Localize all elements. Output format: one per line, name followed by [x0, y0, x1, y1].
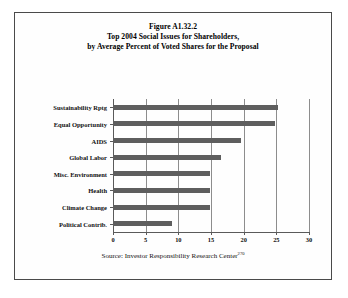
figure-title: Figure A1.32.2 Top 2004 Social Issues fo…: [15, 22, 331, 53]
x-tick-label: 20: [240, 236, 246, 243]
title-line-2: Top 2004 Social Issues for Shareholders,: [15, 32, 331, 42]
x-tick-label: 0: [111, 236, 114, 243]
x-tick-mark: [244, 232, 245, 235]
y-tick-mark: [110, 224, 113, 225]
y-axis-label: Political Contrib.: [59, 220, 107, 227]
figure-frame: Figure A1.32.2 Top 2004 Social Issues fo…: [14, 12, 332, 280]
bar-row: [113, 105, 309, 110]
y-axis-label: Sustainability Rptg: [53, 104, 107, 111]
y-axis-label: Climate Change: [62, 204, 107, 211]
gridline: [309, 99, 310, 232]
x-tick-mark: [113, 232, 114, 235]
y-tick-mark: [110, 107, 113, 108]
x-tick-mark: [309, 232, 310, 235]
bar: [113, 138, 241, 143]
bar: [113, 221, 172, 226]
bar-row: [113, 188, 309, 193]
x-tick-label: 15: [208, 236, 214, 243]
y-axis-label: Health: [88, 187, 107, 194]
source-footnote-marker: 270: [238, 251, 245, 256]
x-tick-mark: [211, 232, 212, 235]
bar: [113, 121, 275, 126]
x-tick-label: 5: [144, 236, 147, 243]
bar-row: [113, 205, 309, 210]
bar-row: [113, 221, 309, 226]
x-tick-mark: [146, 232, 147, 235]
gridline: [276, 99, 277, 232]
x-tick-mark: [178, 232, 179, 235]
y-axis-label: Equal Opportunity: [54, 120, 107, 127]
x-tick-label: 25: [273, 236, 279, 243]
gridline: [146, 99, 147, 232]
y-tick-mark: [110, 207, 113, 208]
y-tick-mark: [110, 124, 113, 125]
bar: [113, 188, 210, 193]
bar: [113, 171, 210, 176]
bar-row: [113, 138, 309, 143]
x-tick-label: 30: [306, 236, 312, 243]
gridline: [178, 99, 179, 232]
source-text: Source: Investor Responsibility Research…: [102, 252, 238, 260]
x-tick-mark: [276, 232, 277, 235]
y-tick-mark: [110, 141, 113, 142]
source-note: Source: Investor Responsibility Research…: [15, 251, 331, 260]
y-axis-label: Misc. Environment: [54, 170, 107, 177]
bar: [113, 105, 278, 110]
y-tick-mark: [110, 190, 113, 191]
bar-chart: 051015202530 Sustainability RptgEqual Op…: [113, 99, 309, 232]
y-axis-label: AIDS: [91, 137, 107, 144]
x-tick-label: 10: [175, 236, 181, 243]
bar-row: [113, 121, 309, 126]
y-axis-label: Global Labor: [69, 154, 107, 161]
bar: [113, 205, 210, 210]
y-tick-mark: [110, 157, 113, 158]
bar-row: [113, 171, 309, 176]
bar: [113, 155, 221, 160]
bar-row: [113, 155, 309, 160]
title-line-1: Figure A1.32.2: [15, 22, 331, 32]
gridline: [211, 99, 212, 232]
y-tick-mark: [110, 174, 113, 175]
gridline: [244, 99, 245, 232]
title-line-3: by Average Percent of Voted Shares for t…: [15, 42, 331, 52]
